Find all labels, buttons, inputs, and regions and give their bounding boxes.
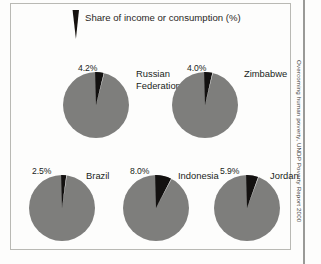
legend-label: Share of income or consumption (%) — [85, 9, 241, 24]
pie-value-label: 2.5% — [32, 166, 51, 176]
wedge-swatch-icon — [72, 10, 79, 39]
pie-country-label: Indonesia — [178, 170, 219, 182]
pie-value-label: 8.0% — [130, 166, 149, 176]
pie-country-label-line: Zimbabwe — [244, 68, 287, 80]
pie-value-label: 5.9% — [220, 166, 239, 176]
pie-country-label-line: Jordan — [270, 170, 299, 182]
right-divider — [303, 0, 305, 264]
pie-value-label: 4.2% — [78, 63, 97, 73]
pie-chart-figure: Share of income or consumption (%) 4.2%R… — [0, 0, 321, 264]
pie-country-label: RussianFederation — [136, 68, 181, 91]
chart-legend: Share of income or consumption (%) — [72, 9, 241, 39]
pie-country-label: Brazil — [86, 170, 109, 182]
pie-country-label-line: Indonesia — [178, 170, 219, 182]
source-credit: Overcoming human poverty, UNDP Poverty R… — [296, 60, 303, 220]
pie-base — [214, 175, 280, 241]
pie-value-label: 4.0% — [187, 63, 206, 73]
pie-country-label: Zimbabwe — [244, 68, 287, 80]
pie-country-label-line: Federation — [136, 80, 181, 92]
pie-base — [63, 72, 129, 138]
pie-country-label-line: Brazil — [86, 170, 109, 182]
pie-country-label-line: Russian — [136, 68, 181, 80]
pie-base — [29, 175, 95, 241]
pie-base — [172, 72, 238, 138]
pie-base — [123, 175, 189, 241]
pie-country-label: Jordan — [270, 170, 299, 182]
